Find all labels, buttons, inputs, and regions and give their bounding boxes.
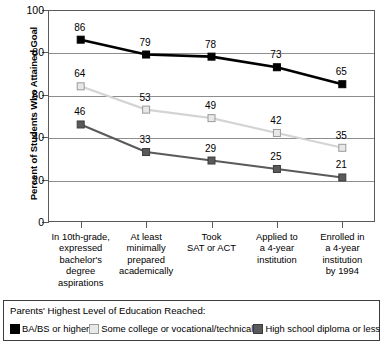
x-tick-3 [277,222,278,228]
x-category-label-4: Enrolled ina 4-yearinstitutionby 1994 [310,231,375,293]
legend: Parents' Highest Level of Education Reac… [3,300,380,341]
x-category-line: institution [311,254,374,265]
x-category-line: institution [245,254,308,265]
data-point-value-label: 49 [205,101,216,111]
y-tick-label-80: 80 [4,47,44,57]
x-category-line: Enrolled in [311,231,374,242]
legend-swatch-icon [253,324,263,334]
legend-item-2[interactable]: High school diploma or less [253,323,380,334]
data-point-value-label: 33 [140,135,151,145]
data-point-value-label: 79 [140,38,151,48]
data-point-value-label: 35 [336,131,347,141]
chart-figure: Percent of Students Who Attained Goal 02… [0,0,384,345]
data-point-marker [143,106,150,113]
x-category-line: academically [114,265,177,276]
y-tick-label-20: 20 [4,175,44,185]
x-category-line: Took [180,231,243,242]
legend-swatch-icon [89,324,99,334]
data-point-marker [339,174,346,181]
x-category-line: SAT or ACT [180,242,243,253]
y-tick-label-0: 0 [4,217,44,227]
data-point-marker [77,36,84,43]
x-axis-category-labels: In 10th-grade,expressedbachelor'sdegreea… [48,231,375,293]
data-point-marker [208,115,215,122]
y-tick-label-100: 100 [4,5,44,15]
y-axis-title: Percent of Students Who Attained Goal [28,1,39,226]
data-point-marker [143,149,150,156]
data-point-marker [273,166,280,173]
x-category-line: expressed [49,242,112,253]
x-category-line: by 1994 [311,265,374,276]
data-point-value-label: 25 [270,152,281,162]
x-tick-2 [212,222,213,228]
y-tick-label-60: 60 [4,90,44,100]
legend-item-label: Some college or vocational/technical [101,323,253,334]
data-point-marker [339,81,346,88]
data-point-marker [208,53,215,60]
x-category-line: prepared [114,254,177,265]
data-point-value-label: 64 [74,69,85,79]
x-category-line: degree [49,265,112,276]
x-tick-1 [146,222,147,228]
legend-item-label: BA/BS or higher [22,323,89,334]
x-tick-4 [342,222,343,228]
legend-items: BA/BS or higherSome college or vocationa… [10,323,375,334]
x-category-label-0: In 10th-grade,expressedbachelor'sdegreea… [48,231,113,293]
data-point-value-label: 78 [205,40,216,50]
x-category-line: In 10th-grade, [49,231,112,242]
data-point-marker [273,129,280,136]
data-point-value-label: 53 [140,93,151,103]
x-category-line: Applied to [245,231,308,242]
data-point-marker [339,144,346,151]
legend-swatch-icon [10,324,20,334]
legend-item-0[interactable]: BA/BS or higher [10,323,89,334]
x-tick-0 [81,222,82,228]
data-point-value-label: 73 [270,50,281,60]
legend-item-1[interactable]: Some college or vocational/technical [89,323,253,334]
data-point-marker [77,121,84,128]
x-category-label-2: TookSAT or ACT [179,231,244,293]
x-category-line: a 4-year [311,242,374,253]
data-point-marker [208,157,215,164]
y-tick-label-40: 40 [4,132,44,142]
data-point-value-label: 42 [270,116,281,126]
x-category-label-1: At leastminimallypreparedacademically [113,231,178,293]
data-point-marker [143,51,150,58]
data-point-marker [77,83,84,90]
x-category-label-3: Applied toa 4-yearinstitution [244,231,309,293]
data-point-value-label: 46 [74,107,85,117]
legend-item-label: High school diploma or less [265,323,380,334]
x-category-line: At least [114,231,177,242]
data-point-value-label: 21 [336,160,347,170]
x-category-line: a 4-year [245,242,308,253]
data-point-value-label: 29 [205,144,216,154]
data-point-marker [273,64,280,71]
data-point-value-label: 86 [74,23,85,33]
x-category-line: bachelor's [49,254,112,265]
x-category-line: aspirations [49,277,112,288]
x-category-line: minimally [114,242,177,253]
data-point-value-label: 65 [336,67,347,77]
legend-title: Parents' Highest Level of Education Reac… [10,305,205,316]
